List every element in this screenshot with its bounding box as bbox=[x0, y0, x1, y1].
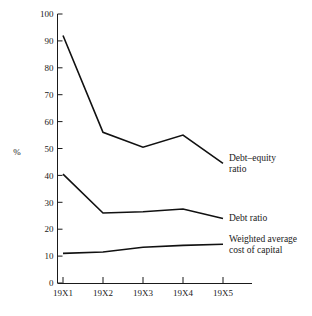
series-line-0 bbox=[63, 36, 223, 164]
series-line-1 bbox=[63, 174, 223, 218]
y-tick-label: 0 bbox=[49, 278, 54, 288]
y-tick-labels: 0102030405060708090100 bbox=[40, 9, 54, 288]
y-tick-label: 30 bbox=[45, 198, 55, 208]
series-label-2: Weighted average bbox=[229, 234, 297, 244]
x-tick-label: 19X3 bbox=[133, 288, 153, 298]
y-axis-title: % bbox=[13, 147, 21, 157]
series-label-2: cost of capital bbox=[229, 245, 283, 255]
y-tick-label: 70 bbox=[45, 90, 55, 100]
x-tick-label: 19X4 bbox=[173, 288, 193, 298]
x-tick-labels: 19X119X219X319X419X5 bbox=[53, 288, 233, 298]
y-tick-label: 40 bbox=[45, 171, 55, 181]
x-tick-label: 19X2 bbox=[93, 288, 113, 298]
y-tick-label: 100 bbox=[40, 9, 54, 19]
series-line-2 bbox=[63, 244, 223, 253]
y-tick-label: 90 bbox=[45, 36, 55, 46]
series-label-0: ratio bbox=[229, 164, 247, 174]
series-label-0: Debt–equity bbox=[229, 153, 276, 163]
x-tick-label: 19X5 bbox=[213, 288, 233, 298]
y-tick-label: 50 bbox=[45, 144, 55, 154]
y-tick-label: 60 bbox=[45, 117, 55, 127]
y-tick-label: 80 bbox=[45, 63, 55, 73]
line-chart: 0102030405060708090100 19X119X219X319X41… bbox=[0, 0, 312, 316]
y-tick-label: 10 bbox=[45, 251, 55, 261]
series-lines bbox=[63, 36, 223, 254]
y-tick-label: 20 bbox=[45, 224, 55, 234]
series-label-1: Debt ratio bbox=[229, 213, 268, 223]
x-tick-label: 19X1 bbox=[53, 288, 73, 298]
series-labels: Debt–equityratioDebt ratioWeighted avera… bbox=[229, 153, 297, 255]
x-tick-marks bbox=[63, 277, 223, 283]
y-tick-marks bbox=[58, 14, 63, 283]
chart-page: 0102030405060708090100 19X119X219X319X41… bbox=[0, 0, 312, 316]
